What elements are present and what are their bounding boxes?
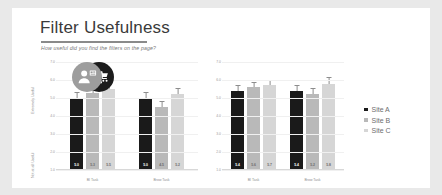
- gridline: [56, 170, 198, 171]
- legend-item[interactable]: Site B: [364, 117, 391, 124]
- error-bar-cap: [310, 88, 315, 89]
- y-axis-tick-label: 7.0: [50, 60, 55, 64]
- bar[interactable]: 5.2: [306, 94, 319, 170]
- error-bar: [177, 89, 178, 94]
- y-axis-tick-label: 4.0: [216, 114, 221, 118]
- legend-label: Site C: [372, 127, 391, 134]
- page-subtitle: How useful did you find the filters on t…: [41, 45, 156, 51]
- y-axis-tick-label: 2.0: [50, 150, 55, 154]
- gridline: [222, 152, 344, 153]
- gridline: [56, 98, 198, 99]
- y-axis-ticks-right: 7.06.05.04.03.02.01.0: [207, 62, 221, 170]
- y-axis-tick-label: 3.0: [50, 132, 55, 136]
- gridline: [56, 134, 198, 135]
- y-axis-tick-label: 6.0: [50, 78, 55, 82]
- chart-panel-browser: 7.06.05.04.03.02.01.0 5.45.65.7BI Task5.…: [198, 56, 346, 188]
- error-bar-cap: [143, 92, 148, 93]
- x-axis-category-label: Brow Task: [304, 178, 320, 182]
- error-bar: [269, 81, 270, 86]
- error-bar-cap: [251, 82, 256, 83]
- y-axis-top-label: Extremely Useful: [31, 87, 35, 114]
- slide-card: Filter Usefulness How useful did you fin…: [12, 8, 430, 188]
- y-axis-tick-label: 5.0: [50, 96, 55, 100]
- error-bar-cap: [175, 88, 180, 89]
- browser-persona-icon: [72, 62, 102, 92]
- y-axis-tick-label: 3.0: [216, 132, 221, 136]
- error-bar: [161, 102, 162, 107]
- gridline: [56, 62, 198, 63]
- y-axis-tick-label: 1.0: [50, 168, 55, 172]
- error-bar: [237, 85, 238, 90]
- chart-panel-shopper: Extremely Useful Not at all Useful 7.06.…: [32, 56, 200, 188]
- bar[interactable]: 5.4: [231, 91, 244, 170]
- legend-swatch: [364, 108, 368, 112]
- legend-swatch: [364, 129, 368, 133]
- y-axis-ticks-left: 7.06.05.04.03.02.01.0: [41, 62, 55, 170]
- bar[interactable]: 5.3: [86, 93, 99, 170]
- gridline: [222, 134, 344, 135]
- legend-swatch: [364, 118, 368, 122]
- error-bar-cap: [326, 77, 331, 78]
- error-bar-cap: [294, 85, 299, 86]
- gridline: [222, 80, 344, 81]
- gridline: [222, 170, 344, 171]
- chart-legend: Site ASite BSite C: [364, 106, 391, 134]
- bar[interactable]: 5.6: [247, 87, 260, 170]
- y-axis-tick-label: 1.0: [216, 168, 221, 172]
- x-axis-category-label: BI Task: [248, 178, 259, 182]
- title-divider: [41, 41, 147, 43]
- gridline: [222, 116, 344, 117]
- error-bar-cap: [159, 101, 164, 102]
- y-axis-tick-label: 5.0: [216, 96, 221, 100]
- page-title: Filter Usefulness: [40, 18, 170, 38]
- y-axis-bottom-label: Not at all Useful: [31, 153, 35, 178]
- y-axis-tick-label: 7.0: [216, 60, 221, 64]
- bar[interactable]: 5.4: [290, 91, 303, 170]
- gridline: [56, 116, 198, 117]
- gridline: [56, 152, 198, 153]
- y-axis-tick-label: 6.0: [216, 78, 221, 82]
- legend-item[interactable]: Site A: [364, 106, 391, 113]
- error-bar: [296, 85, 297, 90]
- legend-item[interactable]: Site C: [364, 127, 391, 134]
- legend-label: Site B: [372, 117, 391, 124]
- bar[interactable]: 5.2: [171, 94, 184, 170]
- error-bar-cap: [235, 85, 240, 86]
- y-axis-tick-label: 4.0: [50, 114, 55, 118]
- gridline: [222, 98, 344, 99]
- bar[interactable]: 5.5: [102, 89, 115, 170]
- bar[interactable]: 5.8: [322, 84, 335, 170]
- error-bar: [253, 83, 254, 88]
- x-axis-category-label: Brow Task: [153, 178, 169, 182]
- error-bar-cap: [74, 92, 79, 93]
- legend-label: Site A: [372, 106, 390, 113]
- y-axis-tick-label: 2.0: [216, 150, 221, 154]
- x-axis-category-label: BI Task: [87, 178, 98, 182]
- error-bar: [312, 89, 313, 94]
- gridline: [222, 62, 344, 63]
